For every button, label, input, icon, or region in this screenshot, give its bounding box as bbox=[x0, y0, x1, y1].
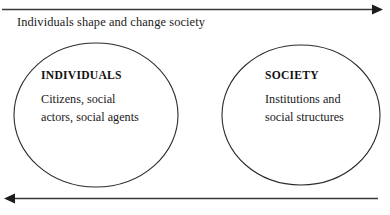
node-individuals-title: INDIVIDUALS bbox=[41, 69, 171, 82]
diagram-canvas: Individuals shape and change society IND… bbox=[0, 0, 390, 215]
top-arrow-head-icon bbox=[372, 5, 383, 15]
node-society-title: SOCIETY bbox=[265, 69, 387, 82]
node-individuals-description-line2: actors, social agents bbox=[41, 110, 139, 124]
top-arrow-label: Individuals shape and change society bbox=[17, 15, 205, 30]
node-individuals-description-line1: Citizens, social bbox=[41, 92, 115, 106]
node-society-description-line1: Institutions and bbox=[265, 92, 341, 106]
node-society-description: Institutions and social structures bbox=[265, 91, 387, 126]
top-arrow bbox=[2, 5, 383, 15]
bottom-arrow bbox=[4, 194, 378, 204]
node-society-description-line2: social structures bbox=[265, 110, 344, 124]
node-society-text: SOCIETY Institutions and social structur… bbox=[265, 69, 387, 126]
node-individuals-description: Citizens, social actors, social agents bbox=[41, 91, 171, 126]
node-individuals-text: INDIVIDUALS Citizens, social actors, soc… bbox=[41, 69, 171, 126]
bottom-arrow-head-icon bbox=[4, 194, 15, 204]
